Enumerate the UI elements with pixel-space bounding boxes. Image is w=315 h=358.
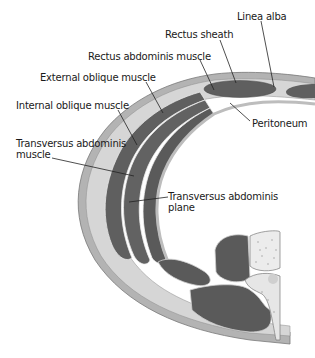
label-transversus-abdominis: Transversus abdominis muscle [16, 138, 126, 160]
label-line-1: Transversus abdominis [168, 191, 278, 202]
label-line-2: plane [168, 202, 278, 213]
label-line-1: Transversus abdominis [16, 138, 126, 149]
spinal-canal [268, 274, 278, 284]
psoas-muscle [215, 235, 250, 282]
label-rectus-sheath: Rectus sheath [165, 29, 233, 40]
transversus-abdominis-muscle [143, 108, 214, 263]
label-internal-oblique: Internal oblique muscle [16, 100, 129, 111]
label-linea-alba: Linea alba [237, 11, 287, 22]
rectus-abdominis-muscle [204, 81, 276, 98]
label-tap: Transversus abdominis plane [168, 191, 278, 213]
label-external-oblique: External oblique muscle [40, 72, 156, 83]
quadratus-lumborum [158, 259, 210, 285]
label-peritoneum: Peritoneum [252, 118, 307, 129]
vertebral-body [250, 231, 280, 271]
label-rectus-abdominis: Rectus abdominis muscle [88, 51, 211, 62]
label-line-2: muscle [16, 149, 126, 160]
abdominal-wall-diagram: Linea alba Rectus sheath Rectus abdomini… [0, 0, 315, 358]
